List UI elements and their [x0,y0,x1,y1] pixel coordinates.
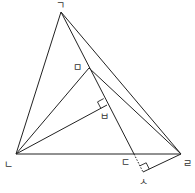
label-digeut: ㄷ [121,157,130,168]
label-siot: ㅅ [139,176,148,187]
label-giyeok: ㄱ [56,0,65,11]
label-rieul: ㄹ [183,158,192,169]
geometry-diagram: ㄱ ㄴ ㄷ ㄹ ㅁ ㅂ ㅅ [0,0,195,193]
label-mieum: ㅁ [73,62,82,73]
segment-nieun-mieum [16,68,89,154]
segment-giyeok-digeut [61,12,134,154]
segment-digeut-siot-dotted [134,154,143,172]
label-bieup: ㅂ [100,111,109,122]
label-nieun: ㄴ [4,159,13,170]
segment-giyeok-rieul [61,12,181,154]
segment-giyeok-nieun [16,12,61,154]
segment-rieul-siot [143,154,181,172]
